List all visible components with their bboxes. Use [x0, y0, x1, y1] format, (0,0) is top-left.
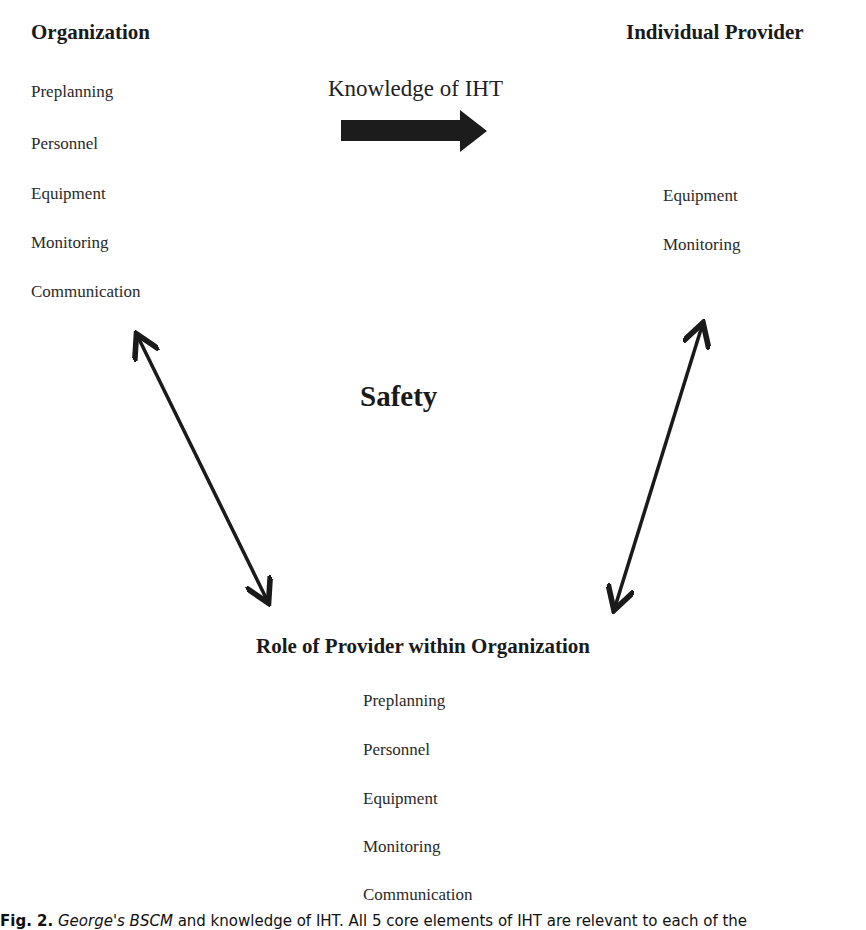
safety-title: Safety	[360, 380, 437, 413]
individual-provider-item: Monitoring	[663, 235, 740, 255]
role-item: Preplanning	[363, 691, 445, 711]
caption-italic: George's BSCM	[58, 912, 173, 930]
figure-caption: Fig. 2. George's BSCM and knowledge of I…	[0, 912, 747, 930]
organization-item: Preplanning	[31, 82, 113, 102]
caption-text: and knowledge of IHT. All 5 core element…	[173, 912, 747, 930]
organization-item: Monitoring	[31, 233, 108, 253]
individual-provider-item: Equipment	[663, 186, 738, 206]
role-item: Monitoring	[363, 837, 440, 857]
role-item: Personnel	[363, 740, 430, 760]
organization-item: Personnel	[31, 134, 98, 154]
double-headed-arrow-icon	[615, 326, 702, 607]
role-item: Equipment	[363, 789, 438, 809]
double-headed-arrow-icon	[138, 337, 267, 600]
organization-item: Equipment	[31, 184, 106, 204]
right-block-arrow-icon	[341, 110, 487, 152]
role-item: Communication	[363, 885, 473, 905]
individual-provider-heading: Individual Provider	[626, 20, 804, 45]
caption-fig-label: Fig. 2.	[0, 912, 53, 930]
organization-item: Communication	[31, 282, 141, 302]
organization-heading: Organization	[31, 20, 150, 45]
role-heading: Role of Provider within Organization	[256, 634, 590, 659]
knowledge-label: Knowledge of IHT	[328, 76, 503, 102]
